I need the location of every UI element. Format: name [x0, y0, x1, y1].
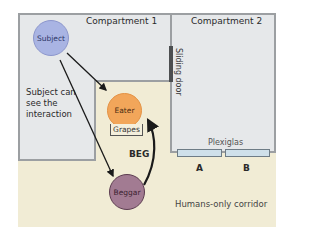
beggar-node: Beggar — [109, 174, 145, 210]
grapes-label: Grapes — [113, 125, 140, 134]
eater-node: Eater — [107, 93, 142, 128]
grapes-tray: Grapes — [110, 124, 143, 136]
subject-node: Subject — [33, 20, 69, 56]
subject-label: Subject — [37, 34, 65, 43]
eater-label: Eater — [115, 106, 135, 115]
beg-label: BEG — [129, 149, 149, 159]
corridor-label: Humans-only corridor — [175, 199, 267, 209]
plexiglas-window-a — [177, 149, 222, 157]
window-a-label: A — [196, 163, 203, 173]
plexiglas-label: Plexiglas — [208, 138, 243, 147]
arrow-subject-to-eater — [67, 53, 106, 90]
window-b-label: B — [243, 163, 250, 173]
plexiglas-window-b — [225, 149, 270, 157]
arrow-subject-to-beggar — [60, 60, 113, 176]
beggar-label: Beggar — [114, 188, 141, 197]
